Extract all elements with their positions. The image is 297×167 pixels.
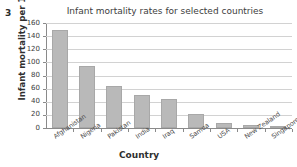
x-axis-tick-mark xyxy=(210,129,211,132)
x-axis-tick-mark xyxy=(155,129,156,132)
bar xyxy=(161,99,177,128)
x-axis-tick-mark xyxy=(183,129,184,132)
x-axis-tick-mark xyxy=(265,129,266,132)
y-axis-tick-label: 140 xyxy=(18,33,40,40)
y-axis-tick-label: 80 xyxy=(18,72,40,79)
y-axis-tick-label: 120 xyxy=(18,46,40,53)
x-axis-tick-mark xyxy=(128,129,129,132)
x-axis-tick-mark xyxy=(101,129,102,132)
bar xyxy=(134,95,150,128)
x-axis-tick-mark xyxy=(73,129,74,132)
y-axis-tick-label: 40 xyxy=(18,98,40,105)
question-number: 3 xyxy=(5,8,11,18)
bar xyxy=(106,86,122,128)
x-axis-tick-mark xyxy=(292,129,293,132)
y-axis-tick-label: 0 xyxy=(18,125,40,132)
y-axis-tick-label: 160 xyxy=(18,20,40,27)
y-axis-tick-label: 60 xyxy=(18,85,40,92)
bar xyxy=(52,30,68,128)
y-axis-tick-label: 20 xyxy=(18,111,40,118)
y-axis-tick-label: 100 xyxy=(18,59,40,66)
chart-title: Infant mortality rates for selected coun… xyxy=(40,6,290,16)
x-axis-tick-mark xyxy=(237,129,238,132)
chart-page: 3 Infant mortality rates for selected co… xyxy=(0,0,297,167)
x-axis-label: Country xyxy=(119,150,159,160)
